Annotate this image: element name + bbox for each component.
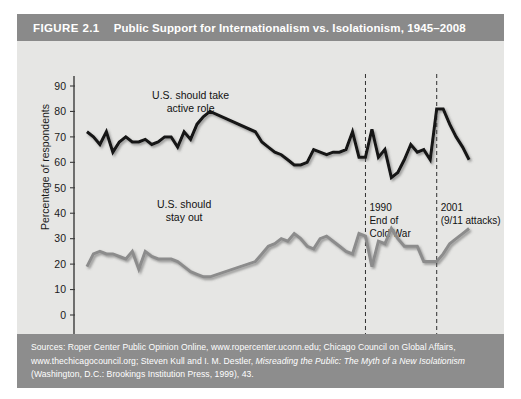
annotation-2001-line2: (9/11 attacks) [441,215,501,226]
annotation-1990-line2: End of [369,215,398,226]
sources-line-2b: Misreading the Public: The Myth of a New [256,356,417,366]
sources-line-3a: Isolationism [419,356,465,366]
y-tick-label: 30 [54,232,66,244]
series-label-active-role-line1: U.S. should take [152,89,229,101]
figure-title: Public Support for Internationalism vs. … [114,22,466,34]
line-chart: 0102030405060708090194519501955196019651… [17,41,504,347]
y-tick-label: 10 [54,283,66,295]
sources-line-3b: (Washington, D.C.: Brookings Institution… [31,369,254,379]
y-tick-label: 60 [54,156,66,168]
sources-line-1: Sources: Roper Center Public Opinion Onl… [31,342,427,352]
series-line-active-role [87,109,469,178]
series-label-active-role-line2: active role [167,102,215,114]
y-tick-label: 80 [54,105,66,117]
figure-header-bar: FIGURE 2.1 Public Support for Internatio… [17,14,504,41]
annotation-2001-line1: 2001 [441,202,464,213]
y-tick-label: 40 [54,207,66,219]
sources-note: Sources: Roper Center Public Opinion Onl… [31,341,490,382]
annotation-1990-line1: 1990 [369,202,392,213]
series-label-stay-out-line1: U.S. should [157,198,211,210]
y-tick-label: 70 [54,131,66,143]
y-tick-label: 0 [60,309,66,321]
y-tick-label: 20 [54,258,66,270]
figure-sources-bar: Sources: Roper Center Public Opinion Onl… [17,334,504,388]
plot-area: Percentage of respondents 01020304050607… [17,41,504,347]
figure-number: FIGURE 2.1 [33,22,100,34]
series-line-stay-out [87,228,469,276]
y-tick-label: 90 [54,80,66,92]
series-label-stay-out-line2: stay out [166,211,203,223]
figure-container: FIGURE 2.1 Public Support for Internatio… [17,14,504,388]
y-tick-label: 50 [54,182,66,194]
